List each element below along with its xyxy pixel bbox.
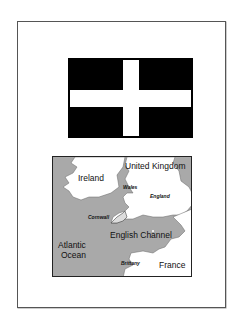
label-ocean: Ocean — [61, 251, 86, 260]
label-ireland: Ireland — [78, 174, 104, 183]
label-atlantic: Atlantic — [58, 241, 86, 250]
label-english-channel: English Channel — [110, 231, 172, 240]
flag-cross-horizontal — [70, 90, 191, 107]
map-of-cornwall-region: Ireland United Kingdom Wales England Cor… — [52, 156, 192, 277]
label-brittany: Brittany — [121, 261, 140, 266]
label-england: England — [150, 194, 170, 199]
cornwall-flag — [68, 58, 193, 138]
label-cornwall: Cornwall — [88, 215, 109, 220]
label-united-kingdom: United Kingdom — [125, 162, 185, 171]
label-wales: Wales — [123, 185, 137, 190]
label-france: France — [159, 261, 185, 270]
